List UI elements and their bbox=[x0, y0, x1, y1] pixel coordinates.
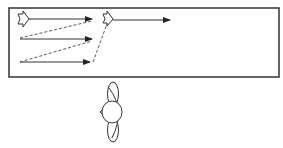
person-top-view-icon bbox=[100, 82, 122, 142]
diagram-canvas bbox=[0, 0, 283, 148]
dashed-return-lines bbox=[20, 21, 107, 62]
surface-frame bbox=[9, 8, 279, 77]
block-arrow-icon bbox=[18, 11, 29, 27]
block-arrow-icon bbox=[103, 11, 113, 26]
